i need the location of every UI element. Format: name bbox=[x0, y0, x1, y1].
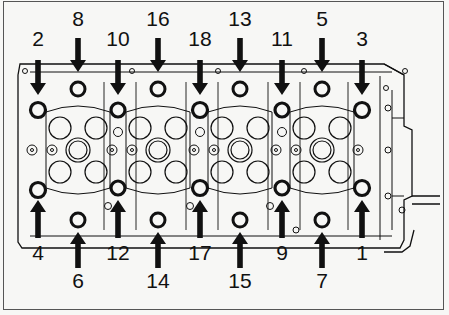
arrow-up-icon bbox=[192, 200, 208, 238]
arrow-down-icon bbox=[354, 60, 370, 95]
bolt-sequence-label: 5 bbox=[316, 8, 328, 29]
bolt-sequence-label: 15 bbox=[228, 270, 251, 291]
bolt-sequence-label: 8 bbox=[72, 8, 84, 29]
arrow-up-icon bbox=[110, 200, 126, 238]
arrow-up-icon bbox=[150, 232, 166, 268]
bolt-sequence-label: 17 bbox=[188, 242, 211, 263]
arrow-up-icon bbox=[314, 232, 330, 268]
cylinder-head-drawing bbox=[0, 0, 449, 315]
bolt-sequence-label: 12 bbox=[106, 242, 129, 263]
head-outline bbox=[18, 64, 412, 248]
bolt-sequence-label: 14 bbox=[146, 270, 169, 291]
arrow-up-icon bbox=[354, 200, 370, 238]
bolt-sequence-label: 3 bbox=[356, 28, 368, 49]
arrow-up-icon bbox=[274, 200, 290, 238]
arrow-down-icon bbox=[110, 60, 126, 95]
bolt-sequence-label: 6 bbox=[72, 270, 84, 291]
bolt-sequence-label: 7 bbox=[316, 270, 328, 291]
bolt-sequence-label: 18 bbox=[188, 28, 211, 49]
arrow-up-icon bbox=[232, 232, 248, 268]
arrow-up-icon bbox=[30, 200, 46, 238]
bolt-sequence-label: 11 bbox=[271, 28, 293, 49]
bolt-sequence-label: 10 bbox=[106, 28, 129, 49]
arrow-down-icon bbox=[232, 38, 248, 72]
bolt-sequence-label: 2 bbox=[32, 28, 44, 49]
bolt-sequence-label: 13 bbox=[228, 8, 251, 29]
bolt-sequence-label: 16 bbox=[146, 8, 169, 29]
bolt-sequence-label: 1 bbox=[356, 242, 368, 263]
arrow-up-icon bbox=[70, 232, 86, 268]
arrow-down-icon bbox=[70, 38, 86, 72]
arrow-down-icon bbox=[192, 60, 208, 95]
bolt-sequence-label: 9 bbox=[276, 242, 288, 263]
end-extension bbox=[412, 196, 440, 204]
arrow-down-icon bbox=[30, 60, 46, 95]
bolt-sequence-diagram: 281016181311534612141715971 bbox=[0, 0, 449, 315]
arrow-down-icon bbox=[274, 60, 290, 95]
bolt-sequence-label: 4 bbox=[32, 242, 44, 263]
arrow-down-icon bbox=[314, 38, 330, 72]
arrow-down-icon bbox=[150, 38, 166, 72]
